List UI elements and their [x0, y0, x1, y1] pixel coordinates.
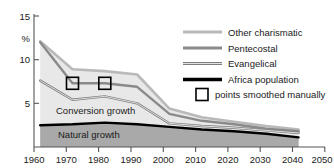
legend-item-other-charismatic: Other charismatic — [183, 27, 303, 38]
y-axis-unit-label: % — [22, 33, 31, 44]
legend-item-pentecostal: Pentecostal — [183, 43, 278, 54]
x-tick-label-2040: 2040 — [282, 154, 303, 165]
legend-label-smoothed-points: points smoothed manually — [215, 89, 326, 100]
y-tick-label-5: 5 — [25, 98, 30, 109]
x-tick-label-2050: 2050 — [311, 154, 332, 165]
y-tick-label-15: 15 — [19, 11, 30, 22]
x-tick-label-2030: 2030 — [250, 154, 271, 165]
legend-label-pentecostal: Pentecostal — [228, 43, 278, 54]
legend-item-evangelical: Evangelical — [183, 58, 277, 69]
x-tick-label-2010: 2010 — [185, 154, 206, 165]
y-tick-label-10: 10 — [19, 54, 30, 65]
x-tick-label-1980: 1980 — [88, 154, 109, 165]
x-tick-label-1970: 1970 — [56, 154, 77, 165]
legend-label-africa-population: Africa population — [228, 74, 299, 85]
legend-label-evangelical: Evangelical — [228, 58, 277, 69]
legend-label-other-charismatic: Other charismatic — [228, 27, 303, 38]
legend-swatch-square-marker-icon — [196, 89, 208, 101]
annotation-natural-growth: Natural growth — [58, 129, 120, 140]
annotation-conversion-growth: Conversion growth — [56, 105, 135, 116]
x-tick-label-1960: 1960 — [23, 154, 44, 165]
legend-item-africa-population: Africa population — [183, 74, 299, 85]
x-tick-label-2020: 2020 — [217, 154, 238, 165]
x-tick-label-1990: 1990 — [120, 154, 141, 165]
legend: Other charismatic Pentecostal Evangelica… — [183, 27, 326, 101]
x-tick-label-2000: 2000 — [153, 154, 174, 165]
chart-container: 15 10 5 % 1960 1970 1980 1990 2000 2010 … — [0, 0, 334, 168]
legend-item-smoothed-points: points smoothed manually — [196, 89, 326, 101]
chart-svg: 15 10 5 % 1960 1970 1980 1990 2000 2010 … — [0, 0, 334, 168]
